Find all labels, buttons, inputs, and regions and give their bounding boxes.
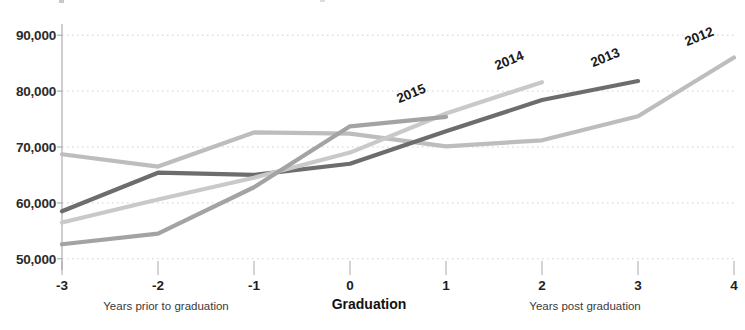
axis-note-graduation: Graduation <box>332 296 407 312</box>
x-tick-label: -1 <box>248 278 260 293</box>
x-tick-label: 1 <box>442 278 450 293</box>
x-tick-label: 0 <box>346 278 354 293</box>
x-tick-label: 3 <box>634 278 642 293</box>
x-tick-label: -3 <box>56 278 68 293</box>
y-tick-label: 80,000 <box>16 84 56 99</box>
y-tick-label: 60,000 <box>16 195 56 210</box>
axis-note-left: Years prior to graduation <box>103 300 229 312</box>
series-line-2013 <box>62 81 638 211</box>
series-line-2014 <box>62 82 542 222</box>
x-tick-label: 4 <box>730 278 738 293</box>
line-chart: 50,00060,00070,00080,00090,000 -3-2-1012… <box>0 0 745 330</box>
series-line-2012 <box>62 58 734 167</box>
y-tick-label: 70,000 <box>16 140 56 155</box>
y-tick-label: 90,000 <box>16 28 56 43</box>
y-tick-label: 50,000 <box>16 251 56 266</box>
x-axis-tickmarks <box>62 261 734 275</box>
x-tick-label: -2 <box>152 278 164 293</box>
y-axis-labels: 50,00060,00070,00080,00090,000 <box>0 0 56 330</box>
axis-note-right: Years post graduation <box>529 300 640 312</box>
x-tick-label: 2 <box>538 278 546 293</box>
series-lines <box>62 58 734 245</box>
